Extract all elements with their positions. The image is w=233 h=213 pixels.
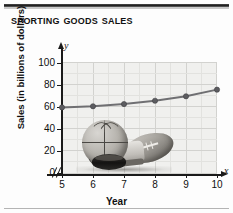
data-point [152, 98, 157, 103]
data-point [59, 105, 64, 110]
x-axis-title: Year [0, 196, 233, 207]
series-line [62, 90, 217, 108]
data-point [214, 87, 219, 92]
chart-figure: Sporting Goods Sales Sales (in billions … [0, 0, 233, 213]
data-point [121, 101, 126, 106]
data-point [90, 104, 95, 109]
figure-bottom-rule [4, 208, 229, 209]
data-series-layer [0, 0, 233, 213]
data-point [183, 94, 188, 99]
